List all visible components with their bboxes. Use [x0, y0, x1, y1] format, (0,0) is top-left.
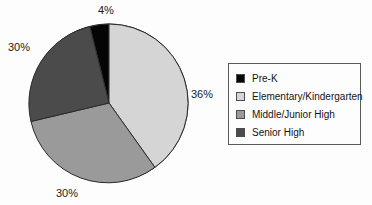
pie-chart-figure: 4% 36% 30% 30% Pre-K Elementary/Kinderga… — [0, 0, 372, 205]
legend-swatch-middle-junior-high — [236, 110, 245, 119]
pie-label-pre-k: 4% — [98, 4, 114, 16]
pie-label-middle-junior-high: 30% — [56, 187, 78, 199]
legend-item-elementary[interactable]: Elementary/Kindergarten — [236, 88, 360, 105]
pie-plot-area — [28, 22, 190, 184]
legend-label-elementary: Elementary/Kindergarten — [252, 91, 363, 102]
legend-label-senior-high: Senior High — [252, 127, 304, 138]
legend-label-middle-junior-high: Middle/Junior High — [252, 109, 335, 120]
chart-legend: Pre-K Elementary/Kindergarten Middle/Jun… — [228, 63, 361, 145]
legend-item-pre-k[interactable]: Pre-K — [236, 70, 360, 87]
pie-label-senior-high: 30% — [8, 41, 30, 53]
legend-item-senior-high[interactable]: Senior High — [236, 124, 360, 141]
legend-swatch-senior-high — [236, 128, 245, 137]
legend-label-pre-k: Pre-K — [252, 73, 278, 84]
legend-swatch-elementary — [236, 92, 245, 101]
legend-swatch-pre-k — [236, 74, 245, 83]
pie-label-elementary: 36% — [191, 88, 213, 100]
pie-svg — [28, 22, 190, 184]
legend-item-middle-junior-high[interactable]: Middle/Junior High — [236, 106, 360, 123]
